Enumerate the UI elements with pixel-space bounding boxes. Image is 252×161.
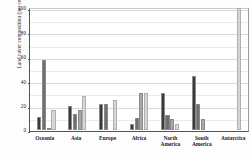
x-axis-category-label: Oceania (29, 133, 60, 159)
x-axis-category-label: Antarctica (218, 133, 249, 159)
x-axis-label-line: Antarctica (218, 135, 249, 141)
x-axis-label-line: Africa (123, 135, 154, 141)
bar (165, 115, 169, 130)
y-axis-tick-label: 20 (12, 104, 26, 109)
y-axis-tick-labels: 020406080100 (8, 0, 26, 161)
bar (78, 110, 82, 130)
y-axis-tick-label: 40 (12, 80, 26, 85)
x-axis-label-line: America (186, 141, 217, 147)
bar-group (216, 10, 247, 130)
bar (113, 100, 117, 131)
x-axis-category-label: Europe (92, 133, 123, 159)
bar-group (31, 10, 62, 130)
bar-group (62, 10, 93, 130)
bar (135, 118, 139, 130)
x-axis-label-line: Oceania (29, 135, 60, 141)
bar (196, 104, 200, 130)
bar (104, 104, 108, 130)
x-axis-category-label: Africa (123, 133, 154, 159)
y-axis-tick-label: 60 (12, 55, 26, 60)
x-axis-label-line: Asia (60, 135, 91, 141)
x-axis-label-line: America (155, 141, 186, 147)
bar (144, 93, 148, 130)
bar-group (154, 10, 185, 130)
bar (201, 119, 205, 130)
bar (170, 119, 174, 130)
bar (139, 93, 143, 130)
x-axis-label-line: Europe (92, 135, 123, 141)
bar (99, 104, 103, 130)
bar (175, 124, 179, 130)
bar (73, 114, 77, 130)
x-axis-category-label: Asia (60, 133, 91, 159)
x-axis-category-labels: OceaniaAsiaEuropeAfricaNorthAmericaSouth… (29, 133, 249, 159)
bar-group (93, 10, 124, 130)
bar-group (185, 10, 216, 130)
bar (51, 110, 55, 130)
bar (82, 96, 86, 130)
x-axis-category-label: NorthAmerica (155, 133, 186, 159)
y-axis-tickmark (28, 83, 31, 84)
bar (161, 93, 165, 130)
bar (37, 117, 41, 130)
chart-figure: Land cover composition (per cent) 020406… (0, 0, 252, 161)
y-axis-tickmark (28, 59, 31, 60)
plot-area (29, 8, 249, 132)
bar-groups (31, 10, 247, 130)
x-axis-category-label: SouthAmerica (186, 133, 217, 159)
bar (130, 124, 134, 130)
bar-group (124, 10, 155, 130)
bar (192, 76, 196, 130)
bar (47, 128, 51, 130)
y-axis-tick-label: 0 (12, 128, 26, 133)
y-axis-tickmark (28, 10, 31, 11)
y-axis-tick-label: 80 (12, 31, 26, 36)
y-axis-tick-label: 100 (12, 6, 26, 11)
bar (68, 106, 72, 130)
y-axis-tickmark (28, 108, 31, 109)
bar (42, 60, 46, 130)
bar (237, 8, 241, 130)
y-axis-tickmark (28, 34, 31, 35)
